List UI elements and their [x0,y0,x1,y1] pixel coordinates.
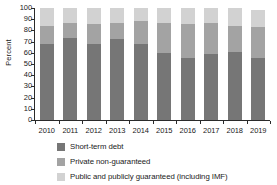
bar-segment [181,58,195,120]
x-axis-tick-label: 2012 [86,126,102,135]
chart-legend: Short-term debtPrivate non-guaranteedPub… [0,139,277,184]
legend-swatch-icon [57,143,65,151]
x-axis-tick-mark [106,121,107,124]
bar-segment [40,44,54,120]
bar-2017 [204,8,218,120]
x-axis-tick-label: 2016 [180,126,196,135]
legend-item: Public and publicly guaranteed (includin… [0,169,277,184]
bar-2011 [63,8,77,120]
stacked-bar-chart: Percent 0102030405060708090100 201020112… [0,0,277,185]
bar-segment [251,58,265,120]
bar-segment [63,23,77,39]
x-axis-tick-mark [247,121,248,124]
bar-segment [110,8,124,23]
bar-segment [134,21,148,43]
x-axis-tick-label: 2013 [109,126,125,135]
bar-2019 [251,10,265,120]
x-axis-tick-mark [129,121,130,124]
bar-segment [134,8,148,21]
bar-segment [204,54,218,120]
legend-item: Short-term debt [0,139,277,154]
bar-2015 [157,8,171,120]
bar-segment [157,8,171,23]
bar-segment [251,27,265,58]
bar-segment [228,52,242,120]
bar-segment [40,8,54,26]
bar-2013 [110,8,124,120]
bar-2010 [40,8,54,120]
legend-label: Private non-guaranteed [70,157,150,166]
x-axis-tick-label: 2017 [203,126,219,135]
x-axis-tick-mark [176,121,177,124]
bar-segment [63,8,77,23]
bar-2016 [181,8,195,120]
bar-2018 [228,8,242,120]
x-axis-tick-mark [59,121,60,124]
x-axis-tick-mark [35,121,36,124]
bar-segment [40,26,54,44]
legend-swatch-icon [57,158,65,166]
x-axis-tick-mark [200,121,201,124]
bar-segment [157,23,171,53]
bar-segment [228,26,242,52]
bar-segment [134,44,148,120]
bar-2012 [87,8,101,120]
x-axis-tick-labels: 2010201120122013201420152016201720182019 [35,126,270,138]
x-axis-tick-label: 2010 [39,126,55,135]
legend-label: Public and publicly guaranteed (includin… [70,172,228,181]
bar-segment [63,38,77,120]
bar-segment [228,8,242,26]
x-axis-tick-label: 2019 [250,126,266,135]
x-axis-tick-label: 2015 [156,126,172,135]
bar-segment [87,24,101,44]
legend-item: Private non-guaranteed [0,154,277,169]
bar-segment [204,8,218,23]
legend-swatch-icon [57,173,65,181]
x-axis-tick-label: 2011 [62,126,78,135]
bar-segment [157,53,171,120]
x-axis-tick-label: 2014 [133,126,149,135]
bar-segment [110,39,124,120]
bar-segment [204,23,218,54]
y-axis-tick-labels: 0102030405060708090100 [12,8,32,121]
plot-area: Percent 0102030405060708090100 201020112… [0,0,277,131]
bar-segment [251,10,265,27]
x-axis-tick-mark [223,121,224,124]
bars-container [35,8,270,120]
legend-label: Short-term debt [70,142,123,151]
x-axis-tick-mark [153,121,154,124]
bar-segment [181,8,195,24]
bar-2014 [134,8,148,120]
x-axis-tick-label: 2018 [227,126,243,135]
bar-segment [87,44,101,120]
x-axis-tick-mark [270,121,271,124]
bar-segment [87,8,101,24]
x-axis-tick-mark [82,121,83,124]
bar-segment [181,24,195,59]
bar-segment [110,23,124,40]
